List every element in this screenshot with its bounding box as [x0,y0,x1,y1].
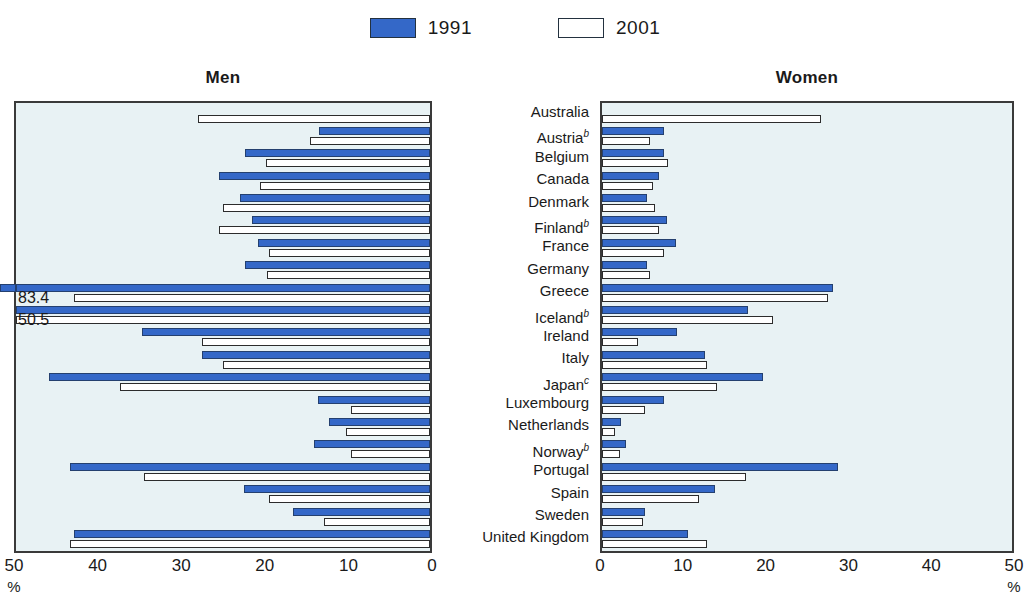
bar-1991 [602,530,688,538]
bar-2001 [351,406,430,414]
legend-entry-2001: 2001 [558,17,660,39]
bar-1991 [602,239,676,247]
bar-row [16,170,430,192]
axis-tick-label: 40 [922,556,941,576]
filled-blue-swatch-icon [370,18,416,38]
country-name: Austria [537,129,584,146]
country-label: Canada [437,168,595,190]
bar-row [16,372,430,394]
bar-1991 [602,194,647,202]
bar-1991 [602,440,626,448]
bar-2001 [602,495,699,503]
bar-row [602,506,1012,528]
bar-1991 [602,284,833,292]
bar-row [602,416,1012,438]
country-label: Sweden [437,504,595,526]
bar-2001 [202,338,430,346]
panel-title-women: Women [600,68,1014,88]
plot-area-women [600,101,1014,553]
bar-1991 [245,149,430,157]
bar-row [16,327,430,349]
country-name: Norway [533,443,584,460]
bar-1991 [602,306,748,314]
country-footnote-marker: b [583,442,589,453]
bar-row [602,215,1012,237]
bar-2001 [120,383,431,391]
country-label: Italy [437,347,595,369]
axis-tick-label: 30 [172,556,191,576]
country-name: Finland [534,219,583,236]
axis-tick-label: 50 [5,556,24,576]
country-footnote-marker: b [583,128,589,139]
bar-1991 [74,530,430,538]
bar-row [16,103,430,125]
bar-2001 [602,115,821,123]
bar-rows-men [16,103,430,551]
country-label: Australia [437,101,595,123]
bar-2001 [198,115,430,123]
bar-2001 [219,226,430,234]
bar-1991 [602,351,705,359]
bar-1991 [602,396,664,404]
bar-1991 [258,239,430,247]
bar-row [16,506,430,528]
legend-label-1991: 1991 [428,17,472,39]
country-label: Finlandb [437,213,595,235]
bar-1991 [244,485,430,493]
bar-1991 [602,261,647,269]
bar-2001 [602,182,653,190]
bar-1991 [314,440,430,448]
country-name: Sweden [535,506,589,523]
bar-row [602,372,1012,394]
bar-2001 [223,204,430,212]
bar-2001 [266,159,430,167]
bar-row [16,125,430,147]
bar-row [602,305,1012,327]
bar-2001 [602,450,620,458]
country-name: Japan [543,376,584,393]
bar-2001 [602,226,659,234]
axis-tick-label: 0 [595,556,604,576]
country-label: Denmark [437,191,595,213]
bar-row [16,349,430,371]
country-label: Norwayb [437,437,595,459]
bar-row [602,260,1012,282]
bar-row [602,170,1012,192]
bar-row [16,260,430,282]
country-name: Spain [551,484,589,501]
bar-2001 [144,473,430,481]
bar-1991 [293,508,430,516]
country-name: Germany [527,260,589,277]
country-label: United Kingdom [437,526,595,548]
bar-2001 [602,361,707,369]
country-label: France [437,235,595,257]
bar-1991 [318,396,430,404]
bar-2001 [223,361,430,369]
country-label: Spain [437,482,595,504]
country-name: Italy [561,349,589,366]
bar-2001 [602,316,773,324]
bar-2001 [602,406,645,414]
annotation-value-83-4: 83.4 [18,289,49,307]
bar-row [602,349,1012,371]
bar-row [602,327,1012,349]
bar-1991 [602,508,645,516]
country-label: Portugal [437,459,595,481]
bar-2001 [602,473,746,481]
x-axis-men: 50403020100% [14,556,432,596]
bar-1991 [16,284,430,292]
bar-2001 [70,540,430,548]
axis-tick-label: 20 [756,556,775,576]
country-label: Icelandb [437,303,595,325]
bar-row [602,484,1012,506]
bar-2001 [602,294,828,302]
bar-row [16,148,430,170]
country-name: Denmark [528,193,589,210]
country-footnote-marker: b [583,218,589,229]
country-label: Belgium [437,146,595,168]
bar-1991 [252,216,430,224]
bar-1991 [70,463,430,471]
bar-1991 [602,172,659,180]
axis-unit-label: % [1007,578,1020,595]
bar-1991 [240,194,430,202]
